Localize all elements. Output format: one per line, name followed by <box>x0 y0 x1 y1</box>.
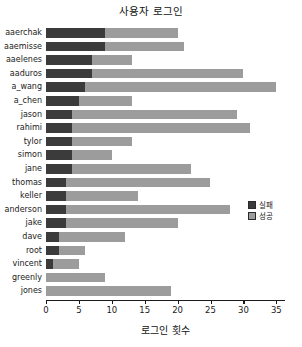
y-axis-label-greenly: greenly <box>0 273 42 283</box>
bar-segment-실패 <box>46 218 66 228</box>
y-axis-label-aaemisse: aaemisse <box>0 42 42 52</box>
y-axis-label-jane: jane <box>0 164 42 174</box>
bar-segment-성공 <box>105 28 177 38</box>
bar-segment-성공 <box>66 205 231 215</box>
x-axis-tick-label: 35 <box>265 305 287 315</box>
bar-row <box>46 137 132 147</box>
y-axis-label-rahimi: rahimi <box>0 123 42 133</box>
bar-segment-성공 <box>46 286 171 296</box>
bar-segment-성공 <box>72 150 111 160</box>
x-axis-tick <box>178 300 179 304</box>
x-axis-tick <box>243 300 244 304</box>
bar-segment-실패 <box>46 178 66 188</box>
bar-segment-실패 <box>46 246 59 256</box>
y-axis-label-aaduros: aaduros <box>0 69 42 79</box>
x-axis-tick-label: 15 <box>134 305 156 315</box>
bar-segment-실패 <box>46 232 59 242</box>
bar-segment-성공 <box>72 110 237 120</box>
bar-row <box>46 218 178 228</box>
legend-swatch-icon <box>248 201 256 209</box>
y-axis-label-keller: keller <box>0 191 42 201</box>
bar-row <box>46 69 243 79</box>
bar-segment-성공 <box>72 137 131 147</box>
bar-segment-성공 <box>92 69 243 79</box>
bar-row <box>46 96 132 106</box>
bar-row <box>46 164 191 174</box>
legend-label: 실패 <box>259 201 273 210</box>
bar-segment-실패 <box>46 205 66 215</box>
bar-row <box>46 42 184 52</box>
bar-segment-성공 <box>66 218 178 228</box>
bar-segment-실패 <box>46 191 66 201</box>
bar-row <box>46 178 210 188</box>
x-axis-tick <box>211 300 212 304</box>
bar-segment-실패 <box>46 28 105 38</box>
y-axis-label-aaelenes: aaelenes <box>0 55 42 65</box>
x-axis-tick-label: 30 <box>232 305 254 315</box>
bar-row <box>46 246 85 256</box>
bar-row <box>46 191 138 201</box>
bar-row <box>46 259 79 269</box>
bar-segment-성공 <box>46 273 105 283</box>
bar-segment-실패 <box>46 42 105 52</box>
bar-segment-실패 <box>46 69 92 79</box>
x-axis-tick-label: 5 <box>68 305 90 315</box>
x-axis-tick <box>79 300 80 304</box>
bar-row <box>46 55 132 65</box>
bar-segment-성공 <box>92 55 131 65</box>
bar-segment-실패 <box>46 96 79 106</box>
x-axis-tick <box>145 300 146 304</box>
bar-row <box>46 28 178 38</box>
login-bar-chart: 사용자 로그인 aaerchakaaemisseaaelenesaadurosa… <box>0 0 302 347</box>
y-axis-label-jones: jones <box>0 286 42 296</box>
x-axis-title: 로그인 횟수 <box>46 322 285 337</box>
bar-segment-실패 <box>46 259 53 269</box>
bar-segment-성공 <box>53 259 79 269</box>
x-axis-tick-label: 20 <box>167 305 189 315</box>
bar-row <box>46 205 230 215</box>
bar-row <box>46 232 125 242</box>
x-axis-tick <box>112 300 113 304</box>
y-axis-label-dave: dave <box>0 232 42 242</box>
legend-item-성공: 성공 <box>248 211 273 221</box>
bar-segment-실패 <box>46 123 72 133</box>
y-axis-label-aaerchak: aaerchak <box>0 28 42 38</box>
y-axis-label-simon: simon <box>0 150 42 160</box>
y-axis-label-anderson: anderson <box>0 205 42 215</box>
bar-segment-실패 <box>46 55 92 65</box>
bar-segment-성공 <box>85 82 276 92</box>
bar-segment-성공 <box>72 123 250 133</box>
x-axis-tick-label: 10 <box>101 305 123 315</box>
bar-row <box>46 123 250 133</box>
chart-title: 사용자 로그인 <box>0 3 302 18</box>
y-axis-label-a_chen: a_chen <box>0 96 42 106</box>
bar-segment-실패 <box>46 164 72 174</box>
bar-row <box>46 150 112 160</box>
y-axis-label-vincent: vincent <box>0 259 42 269</box>
bar-row <box>46 286 171 296</box>
legend-item-실패: 실패 <box>248 200 273 210</box>
bar-segment-성공 <box>66 191 138 201</box>
bar-row <box>46 82 276 92</box>
bar-segment-실패 <box>46 82 85 92</box>
bar-row <box>46 110 237 120</box>
y-axis-label-a_wang: a_wang <box>0 82 42 92</box>
plot-area <box>46 28 283 300</box>
bar-row <box>46 273 105 283</box>
y-axis-label-root: root <box>0 246 42 256</box>
y-axis-label-tylor: tylor <box>0 137 42 147</box>
bar-segment-성공 <box>59 246 85 256</box>
bar-segment-실패 <box>46 110 72 120</box>
bar-segment-성공 <box>59 232 125 242</box>
y-axis-label-thomas: thomas <box>0 178 42 188</box>
x-axis-tick-label: 0 <box>35 305 57 315</box>
x-axis-line <box>46 300 285 301</box>
legend-swatch-icon <box>248 212 256 220</box>
x-axis-tick <box>276 300 277 304</box>
bar-segment-실패 <box>46 137 72 147</box>
bar-segment-성공 <box>66 178 211 188</box>
y-axis-category-labels: aaerchakaaemisseaaelenesaadurosa_wanga_c… <box>0 28 42 300</box>
bar-segment-성공 <box>105 42 184 52</box>
x-axis-tick-label: 25 <box>200 305 222 315</box>
legend-label: 성공 <box>259 212 273 221</box>
